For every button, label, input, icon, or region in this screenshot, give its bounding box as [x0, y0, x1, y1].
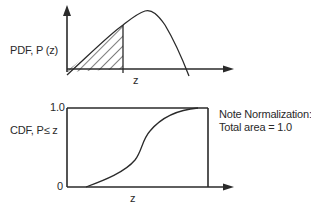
pdf-y-axis-arrow-icon	[63, 5, 71, 16]
cdf-y-axis-label: CDF, P≤ z	[10, 124, 58, 136]
cdf-y-tick-bottom: 0	[57, 180, 63, 192]
cdf-curve	[86, 108, 198, 187]
note-line-2: Total area = 1.0	[219, 121, 292, 133]
note-line-1: Note Normalization:	[219, 108, 311, 120]
cdf-x-axis-label: z	[130, 192, 135, 204]
cdf-y-tick-top: 1.0	[50, 101, 65, 113]
diagram-canvas	[0, 0, 311, 212]
pdf-y-axis-label: PDF, P (z)	[10, 44, 58, 56]
pdf-x-axis-label: z	[133, 74, 138, 86]
cdf-plot	[67, 108, 234, 191]
pdf-x-axis-arrow-icon	[223, 66, 234, 73]
pdf-plot	[60, 5, 234, 76]
cdf-x-axis-arrow-icon	[223, 184, 234, 191]
